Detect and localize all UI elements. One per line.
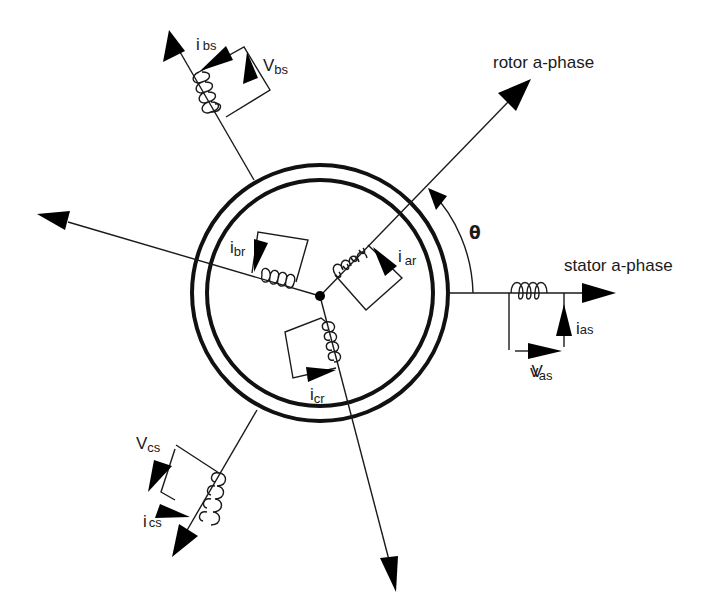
machine-diagram: θ rotor a-phase stator a-phase ias vVas … <box>0 0 722 613</box>
stator-a-phase-label: stator a-phase <box>564 256 673 275</box>
rotor-b-winding <box>252 232 308 288</box>
rotor-c-axis <box>320 296 398 592</box>
rotor-c-winding <box>285 318 341 382</box>
stator-c-current-label: ics <box>143 512 162 531</box>
rotor-a-axis <box>320 79 531 296</box>
rotor-a-phase-label: rotor a-phase <box>493 53 594 72</box>
rotor-b-current-label: ibr <box>230 238 246 259</box>
stator-a-current-label: ias <box>576 319 594 338</box>
stator-c-voltage-label: Vcs <box>136 434 161 455</box>
rotor-a-winding <box>333 245 402 310</box>
stator-b-voltage-label: Vbs <box>263 56 289 77</box>
stator-c-axis <box>172 410 257 557</box>
stator-b-current-label: ibs <box>196 35 217 54</box>
rotor-c-current-label: icr <box>310 385 325 406</box>
stator-a-winding <box>509 283 572 360</box>
neutral-point <box>315 291 325 301</box>
stator-b-winding <box>193 46 270 117</box>
rotor-a-current-label: iar <box>398 247 417 268</box>
stator-a-voltage-label: vVas <box>530 362 553 383</box>
theta-label: θ <box>469 223 481 243</box>
